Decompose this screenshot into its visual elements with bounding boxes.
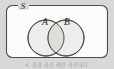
universal-set-label: S <box>21 1 26 11</box>
figure-caption-partial: 4. 경과 사건 배반 사건이다 <box>0 62 114 69</box>
venn-diagram-canvas: S A B <box>0 0 114 69</box>
venn-diagram-figure: S A B 4. 경과 사건 배반 사건이다 <box>0 0 114 69</box>
set-b-label: B <box>64 17 70 27</box>
set-a-label: A <box>41 17 48 27</box>
